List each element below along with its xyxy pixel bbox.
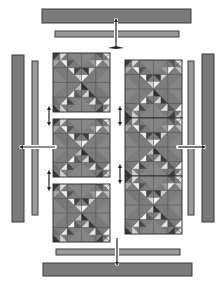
quilt-block (125, 176, 182, 234)
left-outer-border (12, 55, 24, 222)
quilt-block (53, 184, 110, 242)
quilt-block (125, 118, 182, 176)
left-join-arrow-1 (47, 106, 51, 126)
quilt-assembly-diagram (0, 0, 220, 285)
right-border-arrow (178, 145, 206, 149)
right-column (125, 60, 182, 234)
quilt-block (53, 53, 110, 112)
left-inner-border (32, 61, 38, 215)
right-outer-border (202, 54, 214, 222)
bottom-border-arrow (115, 238, 119, 266)
left-join-arrow-2 (47, 170, 51, 191)
right-join-arrow-2 (118, 164, 122, 184)
quilt-block (53, 119, 110, 177)
right-join-arrow-1 (118, 106, 122, 126)
quilt-block (125, 60, 182, 118)
left-border-arrow (19, 145, 55, 149)
right-inner-border (188, 61, 194, 215)
left-column (53, 53, 110, 242)
